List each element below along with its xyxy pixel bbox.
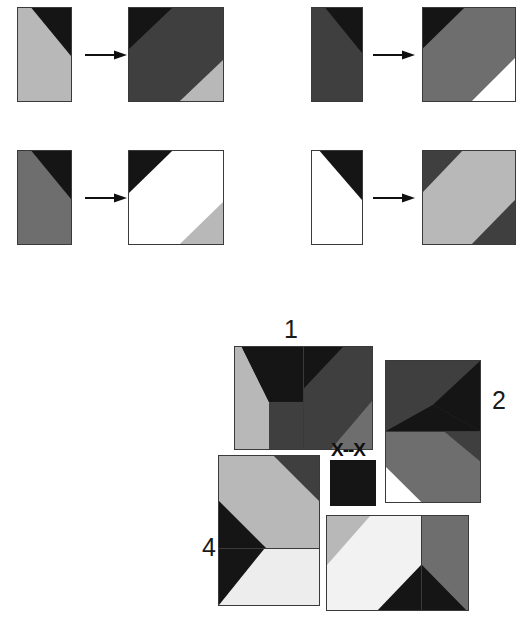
target-tile-2 <box>422 7 516 102</box>
option-1-right-tile[interactable] <box>303 346 373 450</box>
missing-piece-marker: X--X <box>331 440 365 459</box>
examples-section <box>0 0 530 280</box>
transform-arrow-3 <box>85 192 127 204</box>
option-4-bottom-tile[interactable] <box>218 548 320 606</box>
options-section: 1 2 <box>0 300 530 625</box>
option-4-number: 4 <box>202 535 216 560</box>
source-tile-3 <box>17 150 72 245</box>
transform-arrow-2 <box>373 49 415 61</box>
target-tile-1 <box>128 7 224 102</box>
option-1-left-tile[interactable] <box>234 346 304 450</box>
source-tile-1 <box>17 7 72 102</box>
target-tile-4 <box>422 150 516 245</box>
option-2-number: 2 <box>492 388 506 413</box>
source-tile-4 <box>311 150 363 245</box>
target-tile-3 <box>128 150 224 245</box>
missing-piece-tile[interactable] <box>330 460 376 506</box>
option-unlabeled-left-tile[interactable] <box>326 515 422 611</box>
transform-arrow-4 <box>373 192 415 204</box>
source-tile-2 <box>311 7 363 102</box>
option-2-bottom-tile[interactable] <box>385 431 481 503</box>
puzzle-root: 1 2 <box>0 0 530 625</box>
option-2-top-tile[interactable] <box>385 360 481 432</box>
option-4-top-tile[interactable] <box>218 455 320 549</box>
option-unlabeled-right-tile[interactable] <box>421 515 469 611</box>
option-1-number: 1 <box>284 317 298 342</box>
transform-arrow-1 <box>85 49 127 61</box>
